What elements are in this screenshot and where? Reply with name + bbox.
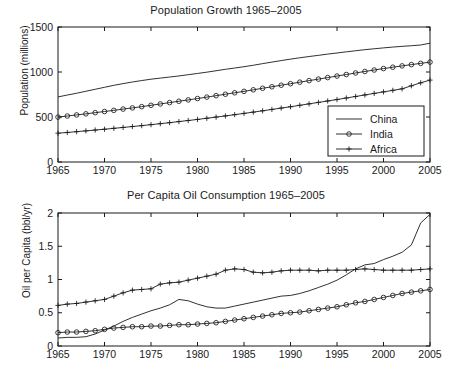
x-axis-tick-label: 1970 bbox=[93, 164, 117, 176]
oil-plot-svg: 19651970197519801985199019952000200500.5… bbox=[0, 185, 452, 370]
y-axis-tick-label: 0.5 bbox=[38, 306, 53, 318]
legend-label: India bbox=[370, 128, 393, 140]
x-axis-tick-label: 1990 bbox=[279, 348, 303, 360]
x-axis-tick-label: 1985 bbox=[232, 164, 256, 176]
data-point-marker bbox=[214, 114, 219, 119]
x-axis-tick-label: 1995 bbox=[325, 348, 349, 360]
data-point-marker bbox=[418, 80, 423, 85]
data-point-marker bbox=[223, 113, 228, 118]
data-point-marker bbox=[93, 298, 98, 303]
data-point-marker bbox=[260, 270, 265, 275]
data-point-marker bbox=[74, 301, 79, 306]
data-point-marker bbox=[334, 97, 339, 102]
y-axis-tick-label: 1.5 bbox=[38, 240, 53, 252]
x-axis-tick-label: 1980 bbox=[186, 164, 210, 176]
data-point-marker bbox=[232, 266, 237, 271]
data-point-marker bbox=[344, 95, 349, 100]
data-point-marker bbox=[121, 125, 126, 130]
x-axis-tick-label: 1985 bbox=[232, 348, 256, 360]
data-point-marker bbox=[362, 266, 367, 271]
data-point-marker bbox=[102, 127, 107, 132]
data-point-marker bbox=[121, 290, 126, 295]
data-point-marker bbox=[65, 302, 70, 307]
data-point-marker bbox=[204, 274, 209, 279]
data-point-marker bbox=[297, 268, 302, 273]
y-axis-tick-label: 0 bbox=[47, 340, 53, 352]
data-point-marker bbox=[176, 119, 181, 124]
series-india bbox=[56, 287, 433, 335]
x-axis-tick-label: 1990 bbox=[279, 164, 303, 176]
data-point-marker bbox=[334, 268, 339, 273]
data-point-marker bbox=[372, 267, 377, 272]
y-axis-tick-label: 1000 bbox=[30, 66, 54, 78]
y-axis-tick-label: 500 bbox=[35, 111, 53, 123]
data-point-marker bbox=[390, 268, 395, 273]
oil-consumption-chart: Per Capita Oil Consumption 1965–2005 196… bbox=[0, 185, 452, 370]
page-caption-fragment bbox=[0, 360, 452, 369]
data-point-marker bbox=[279, 105, 284, 110]
data-point-marker bbox=[55, 131, 60, 136]
y-axis-tick-label: 1 bbox=[47, 273, 53, 285]
x-axis-tick-label: 1995 bbox=[325, 164, 349, 176]
data-point-marker bbox=[251, 110, 256, 115]
y-axis-tick-label: 0 bbox=[47, 156, 53, 168]
population-growth-chart: Population Growth 1965–2005 Population (… bbox=[0, 0, 452, 185]
data-point-marker bbox=[344, 268, 349, 273]
data-point-marker bbox=[186, 278, 191, 283]
data-point-marker bbox=[223, 268, 228, 273]
data-point-marker bbox=[409, 268, 414, 273]
chart-legend[interactable]: ChinaIndiaAfrica bbox=[328, 106, 424, 156]
series-africa bbox=[55, 266, 432, 308]
data-point-marker bbox=[325, 268, 330, 273]
data-point-marker bbox=[400, 86, 405, 91]
data-point-marker bbox=[381, 268, 386, 273]
data-point-marker bbox=[65, 130, 70, 135]
x-axis-tick-label: 1975 bbox=[139, 164, 163, 176]
data-point-marker bbox=[316, 100, 321, 105]
data-point-marker bbox=[93, 127, 98, 132]
data-point-marker bbox=[241, 267, 246, 272]
data-point-marker bbox=[102, 297, 107, 302]
data-point-marker bbox=[427, 266, 432, 271]
data-point-marker bbox=[297, 103, 302, 108]
data-point-marker bbox=[418, 267, 423, 272]
data-point-marker bbox=[390, 88, 395, 93]
data-point-marker bbox=[307, 101, 312, 106]
data-point-marker bbox=[167, 280, 172, 285]
data-point-marker bbox=[362, 92, 367, 97]
data-point-marker bbox=[167, 120, 172, 125]
data-point-marker bbox=[251, 270, 256, 275]
data-point-marker bbox=[400, 268, 405, 273]
data-point-marker bbox=[176, 280, 181, 285]
data-point-marker bbox=[353, 94, 358, 99]
x-axis-tick-label: 2000 bbox=[372, 164, 396, 176]
population-plot-svg: 1965197019751980198519901995200020050500… bbox=[0, 0, 452, 185]
data-point-marker bbox=[204, 116, 209, 121]
data-point-marker bbox=[148, 122, 153, 127]
data-point-marker bbox=[158, 121, 163, 126]
x-axis-tick-label: 2005 bbox=[418, 164, 442, 176]
oil-y-axis-label: Oil per Capita (bbl/yr) bbox=[21, 181, 32, 321]
data-point-marker bbox=[325, 98, 330, 103]
y-axis-tick-label: 2 bbox=[47, 207, 53, 219]
data-point-marker bbox=[269, 270, 274, 275]
data-point-marker bbox=[111, 294, 116, 299]
data-point-marker bbox=[111, 126, 116, 131]
data-point-marker bbox=[148, 286, 153, 291]
x-axis-tick-label: 1975 bbox=[139, 348, 163, 360]
x-axis-tick-label: 2000 bbox=[372, 348, 396, 360]
data-point-marker bbox=[372, 91, 377, 96]
data-point-marker bbox=[195, 117, 200, 122]
data-point-marker bbox=[288, 268, 293, 273]
legend-label: China bbox=[370, 113, 398, 125]
data-point-marker bbox=[158, 282, 163, 287]
data-point-marker bbox=[279, 268, 284, 273]
y-axis-tick-label: 1500 bbox=[30, 21, 54, 33]
data-point-marker bbox=[130, 124, 135, 129]
data-point-marker bbox=[409, 83, 414, 88]
data-point-marker bbox=[269, 107, 274, 112]
data-point-marker bbox=[55, 303, 60, 308]
data-point-marker bbox=[83, 300, 88, 305]
series-line bbox=[58, 269, 430, 306]
data-point-marker bbox=[139, 123, 144, 128]
